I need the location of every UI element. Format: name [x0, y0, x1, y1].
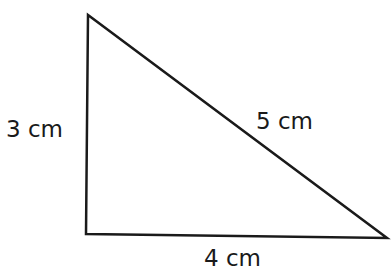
left-side-label: 3 cm [6, 116, 63, 142]
bottom-side-label: 4 cm [204, 245, 261, 271]
triangle-diagram: 3 cm 5 cm 4 cm [0, 0, 391, 279]
hypotenuse-label: 5 cm [256, 108, 313, 134]
